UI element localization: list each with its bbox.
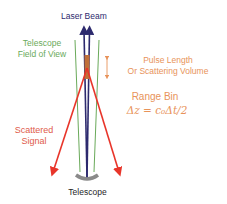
scattered-signal-line2: Signal	[8, 136, 60, 147]
telescope-label: Telescope	[60, 187, 115, 198]
telescope-fov-label: Telescope Field of View	[12, 38, 72, 60]
telescope-fov-line1: Telescope	[12, 38, 72, 49]
scattered-signal-line1: Scattered	[8, 125, 60, 136]
telescope-fov-line2: Field of View	[12, 49, 72, 60]
lidar-diagram: Laser Beam Telescope Field of View Pulse…	[0, 0, 227, 204]
pulse-length-line2: Or Scattering Volume	[118, 66, 218, 77]
range-bin-formula: Δz = c₀Δt/2	[117, 104, 197, 117]
range-bin-label: Range Bin	[120, 90, 190, 103]
laser-beam-arrows	[84, 30, 90, 178]
diagram-graphic	[0, 0, 227, 204]
laser-beam-label: Laser Beam	[61, 11, 107, 22]
pulse-length-label: Pulse Length Or Scattering Volume	[118, 55, 218, 77]
scattered-signal-label: Scattered Signal	[8, 125, 60, 147]
pulse-length-line1: Pulse Length	[118, 55, 218, 66]
